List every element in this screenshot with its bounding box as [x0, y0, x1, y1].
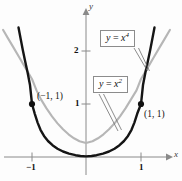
callout-y-equals-x-fourth: y = x4 — [100, 30, 135, 47]
graph-figure: x y −1 1 1 2 (−1, 1) (1, 1) y = x4 y = x… — [0, 0, 182, 181]
x-tick-label-minus1: −1 — [26, 163, 36, 172]
callout-y-equals-x-squared: y = x2 — [93, 76, 128, 93]
y-tick-label-2: 2 — [74, 46, 79, 55]
y-axis-label: y — [89, 2, 93, 11]
y-axis — [82, 8, 91, 175]
quadratic-leader-lines — [99, 94, 122, 131]
callout-quartic-exponent: 4 — [126, 31, 130, 39]
plot-canvas — [0, 0, 182, 181]
y-tick-label-1: 1 — [75, 99, 80, 108]
point-marker-minus1-1 — [29, 101, 35, 107]
callout-quadratic-exponent: 2 — [119, 77, 123, 85]
callout-quartic-equals: = — [110, 32, 121, 43]
point-marker-1-1 — [138, 101, 144, 107]
callout-quadratic-equals: = — [103, 78, 114, 89]
point-label-1-1: (1, 1) — [144, 110, 165, 120]
point-label-minus1-1: (−1, 1) — [37, 92, 63, 102]
x-axis-label: x — [174, 150, 178, 159]
x-tick-label-1: 1 — [139, 163, 144, 172]
